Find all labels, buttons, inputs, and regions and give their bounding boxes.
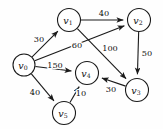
edge-weight-v1-v2: 40 [99, 8, 109, 18]
edge-weight-v0-v2: 60 [72, 40, 82, 50]
graph-node-v3: v3 [126, 79, 149, 102]
edge-weight-v2-v3: 50 [142, 48, 152, 58]
graph-node-v5: v5 [53, 102, 76, 125]
graph-edge-v2-v3 [137, 32, 138, 74]
graph-figure: v0v1v2v3v4v5 303040406060100100505015015… [0, 0, 163, 129]
nodes-layer: v0v1v2v3v4v5 [13, 9, 151, 125]
graph-canvas: v0v1v2v3v4v5 303040406060100100505015015… [0, 0, 163, 129]
graph-node-v2: v2 [128, 9, 151, 32]
edge-weight-v0-v5: 40 [30, 87, 40, 97]
edge-weight-v0-v1: 30 [34, 34, 44, 44]
graph-node-v4: v4 [76, 62, 99, 85]
edge-weight-v1-v3: 100 [102, 43, 118, 53]
graph-node-v1: v1 [58, 9, 81, 32]
edge-weight-v3-v4: 30 [106, 84, 116, 94]
edge-weight-v0-v4: 150 [47, 60, 63, 70]
edge-weight-v5-v4: 10 [76, 88, 86, 98]
graph-node-v0: v0 [13, 54, 35, 76]
